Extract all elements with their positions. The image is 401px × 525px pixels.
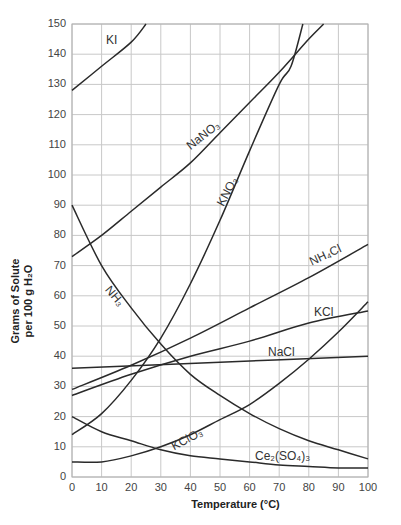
y-tick-label: 90 (24, 198, 66, 210)
label-nacl: NaCl (268, 345, 295, 359)
label-ce2so43: Ce₂(SO₄)₃ (255, 449, 310, 463)
y-tick-label: 150 (24, 17, 66, 29)
y-axis-title-line1: Grams of Solute (9, 221, 22, 381)
x-tick-label: 90 (323, 481, 353, 493)
y-axis-title-line2: per 100 g H₂O (22, 221, 35, 381)
x-tick-label: 40 (175, 481, 205, 493)
x-tick-label: 60 (235, 481, 265, 493)
x-tick-label: 0 (57, 481, 87, 493)
y-axis-title: Grams of Solute per 100 g H₂O (9, 221, 35, 381)
x-tick-label: 50 (205, 481, 235, 493)
y-tick-label: 130 (24, 77, 66, 89)
y-tick-label: 140 (24, 47, 66, 59)
y-tick-label: 20 (24, 410, 66, 422)
x-axis-title: Temperature (°C) (0, 498, 401, 510)
curve-kno3 (72, 24, 303, 435)
x-tick-label: 30 (146, 481, 176, 493)
label-ki: KI (106, 33, 117, 47)
y-tick-label: 110 (24, 138, 66, 150)
x-tick-label: 80 (294, 481, 324, 493)
x-tick-label: 70 (264, 481, 294, 493)
x-tick-label: 10 (87, 481, 117, 493)
y-tick-label: 10 (24, 440, 66, 452)
label-kcl: KCl (314, 305, 333, 319)
y-tick-label: 120 (24, 108, 66, 120)
x-tick-label: 100 (353, 481, 383, 493)
y-tick-label: 30 (24, 379, 66, 391)
y-tick-label: 100 (24, 168, 66, 180)
x-tick-label: 20 (116, 481, 146, 493)
